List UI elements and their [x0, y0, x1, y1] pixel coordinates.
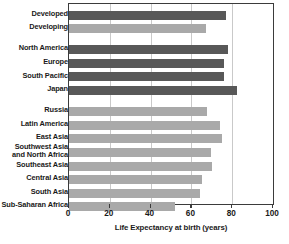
category-label: South Pacific: [0, 72, 68, 80]
gridline-60: [191, 4, 192, 204]
bar: [69, 11, 226, 20]
gridline-80: [232, 4, 233, 204]
x-tick-label: 40: [130, 209, 170, 218]
bar: [69, 86, 237, 95]
category-label: Developing: [0, 23, 68, 31]
bar: [69, 45, 228, 54]
x-axis-title: Life Expectancy at birth (years): [68, 223, 274, 232]
category-label: Europe: [0, 58, 68, 66]
category-label: Sub-Saharan Africa: [0, 201, 68, 209]
bar: [69, 59, 224, 68]
bar: [69, 162, 212, 171]
x-tick-mark: [231, 204, 232, 208]
category-label: Latin America: [0, 120, 68, 128]
gridline-40: [151, 4, 152, 204]
plot-area: [68, 3, 274, 205]
x-tick-mark: [109, 204, 110, 208]
x-tick-mark: [190, 204, 191, 208]
category-label: East Asia: [0, 133, 68, 141]
x-tick-label: 60: [170, 209, 210, 218]
x-tick-label: 0: [48, 209, 88, 218]
bar: [69, 107, 207, 116]
category-label: Japan: [0, 85, 68, 93]
x-tick-mark: [272, 204, 273, 208]
bar: [69, 189, 200, 198]
category-label: Southeast Asia: [0, 161, 68, 169]
bar: [69, 175, 202, 184]
x-tick-label: 100: [252, 209, 289, 218]
bar: [69, 134, 222, 143]
x-tick-label: 80: [211, 209, 251, 218]
bar: [69, 148, 211, 157]
x-tick-label: 20: [89, 209, 129, 218]
gridline-20: [110, 4, 111, 204]
bar: [69, 121, 220, 130]
category-label: Central Asia: [0, 174, 68, 182]
x-tick-mark: [68, 204, 69, 208]
x-tick-mark: [150, 204, 151, 208]
category-label: Russia: [0, 106, 68, 114]
category-label: North America: [0, 44, 68, 52]
category-label: Developed: [0, 10, 68, 18]
category-label: Southwest Asia and North Africa: [0, 143, 68, 159]
category-label: South Asia: [0, 188, 68, 196]
bar-chart: 020406080100 DevelopedDevelopingNorth Am…: [0, 0, 289, 244]
bar: [69, 24, 206, 33]
bar: [69, 72, 224, 81]
